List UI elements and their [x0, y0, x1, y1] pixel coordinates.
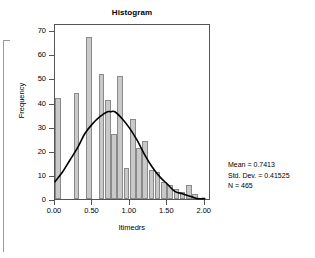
histogram-bar	[124, 168, 130, 199]
y-tick-label: 40	[22, 100, 46, 108]
histogram-bar	[55, 98, 61, 199]
histogram-bar	[136, 148, 142, 199]
x-tick-label: 0.00	[37, 207, 71, 215]
statistics-annotation: Mean = 0.7413 Std. Dev. = 0.41525 N = 46…	[228, 160, 290, 192]
x-tick-mark	[91, 200, 92, 205]
histogram-bar	[142, 141, 148, 199]
y-tick-label: 50	[22, 75, 46, 83]
y-tick-label: 30	[22, 124, 46, 132]
histogram-bar	[74, 93, 80, 199]
histogram-bar	[149, 170, 155, 199]
x-tick-mark	[54, 200, 55, 205]
x-tick-mark	[166, 200, 167, 205]
x-tick-label: 2.00	[187, 207, 221, 215]
plot-area	[54, 24, 210, 200]
x-tick-label: 0.50	[74, 207, 108, 215]
x-axis-title: ltimedrs	[54, 223, 210, 232]
histogram-bar	[167, 185, 173, 199]
x-tick-mark	[129, 200, 130, 205]
histogram-bar	[130, 119, 136, 199]
histogram-bar	[161, 182, 167, 199]
histogram-bar	[180, 192, 186, 199]
histogram-bar	[105, 100, 111, 199]
histogram-bar	[86, 37, 92, 199]
y-tick-label: 60	[22, 51, 46, 59]
container-top-edge	[3, 40, 10, 41]
y-tick-label: 70	[22, 27, 46, 35]
histogram-bar	[192, 194, 198, 199]
y-tick-label: 10	[22, 172, 46, 180]
histogram-bar	[186, 185, 192, 199]
y-tick-label: 0	[22, 196, 46, 204]
plot-inner	[55, 25, 209, 199]
x-tick-label: 1.00	[112, 207, 146, 215]
x-tick-mark	[204, 200, 205, 205]
histogram-bar	[99, 74, 105, 199]
stat-n: N = 465	[228, 181, 290, 192]
histogram-chart-page: Histogram Frequency 010203040506070 0.00…	[0, 0, 315, 258]
chart-title: Histogram	[54, 8, 210, 17]
histogram-bar	[174, 189, 180, 199]
stat-std-dev: Std. Dev. = 0.41525	[228, 171, 290, 182]
container-left-edge	[3, 40, 4, 252]
stat-mean: Mean = 0.7413	[228, 160, 290, 171]
histogram-bar	[155, 172, 161, 199]
y-tick-label: 20	[22, 148, 46, 156]
x-tick-label: 1.50	[149, 207, 183, 215]
histogram-bar	[117, 76, 123, 199]
histogram-bar	[111, 134, 117, 199]
